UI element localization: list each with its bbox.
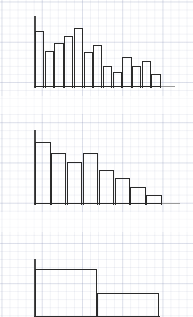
x-axis-baseline <box>34 203 162 204</box>
x-axis-tail <box>162 203 180 204</box>
bar <box>130 187 146 205</box>
bar <box>99 170 115 205</box>
middle-histogram-plot <box>0 110 193 220</box>
chart-panel-bottom <box>0 220 193 317</box>
bar <box>84 52 93 88</box>
top-histogram-plot <box>0 0 193 110</box>
bar <box>51 153 67 205</box>
bar <box>93 45 102 88</box>
graph-paper-canvas <box>0 0 193 317</box>
x-axis-tail <box>161 86 175 87</box>
chart-panel-middle <box>0 110 193 220</box>
bar <box>122 57 131 88</box>
bar <box>142 61 151 88</box>
bar <box>67 162 83 205</box>
bar <box>54 43 63 88</box>
bar <box>132 66 141 88</box>
bar <box>35 142 51 205</box>
bar <box>97 293 159 317</box>
bar <box>83 153 99 205</box>
chart-panel-top <box>0 0 193 110</box>
bottom-histogram-plot <box>0 220 193 317</box>
bar <box>45 51 54 88</box>
bar <box>35 31 44 88</box>
bar <box>35 269 97 317</box>
bar <box>103 66 112 88</box>
bar <box>74 28 83 88</box>
bar <box>115 178 131 205</box>
bar <box>64 36 73 88</box>
x-axis-baseline <box>34 86 161 87</box>
bar <box>113 72 122 88</box>
